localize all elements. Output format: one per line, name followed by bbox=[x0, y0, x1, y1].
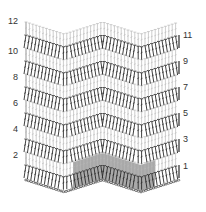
row-label-8: 8 bbox=[2, 72, 18, 82]
row-label-10: 10 bbox=[2, 46, 18, 56]
row-label-3: 3 bbox=[183, 134, 188, 144]
row-label-9: 9 bbox=[183, 56, 188, 66]
row-label-4: 4 bbox=[2, 124, 18, 134]
row-label-12: 12 bbox=[2, 16, 18, 26]
row-label-1: 1 bbox=[183, 161, 188, 171]
row-label-11: 11 bbox=[183, 30, 192, 40]
row-label-7: 7 bbox=[183, 82, 188, 92]
row-label-2: 2 bbox=[2, 150, 18, 160]
row-label-5: 5 bbox=[183, 108, 188, 118]
row-label-6: 6 bbox=[2, 98, 18, 108]
crochet-chart bbox=[0, 0, 206, 212]
